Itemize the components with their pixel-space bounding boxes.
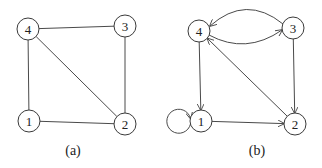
edge-a-4-1 [28, 40, 29, 110]
node-a-2: 2 [114, 113, 136, 135]
svg-text:4: 4 [25, 22, 32, 37]
svg-text:1: 1 [26, 114, 33, 129]
edge-a-4-3 [39, 26, 114, 28]
edge-b-1-2 [212, 121, 284, 123]
graph-b: 4 3 1 2 (b) [167, 9, 306, 159]
caption-a: (a) [65, 143, 81, 159]
node-b-4: 4 [188, 20, 210, 42]
svg-text:3: 3 [290, 21, 297, 36]
edge-b-3-4 [210, 9, 283, 26]
node-b-2: 2 [284, 113, 306, 135]
node-a-4: 4 [17, 18, 39, 40]
edge-a-1-2 [40, 121, 114, 123]
svg-text:2: 2 [292, 117, 299, 132]
node-b-3: 3 [282, 17, 304, 39]
graph-figure: 4 3 1 2 (a) 4 [0, 0, 322, 168]
edge-b-4-3 [209, 30, 282, 44]
node-a-1: 1 [18, 110, 40, 132]
edge-a-4-2 [36, 37, 117, 117]
node-b-1: 1 [190, 110, 212, 132]
svg-text:2: 2 [122, 117, 129, 132]
svg-text:1: 1 [198, 114, 205, 129]
graph-a: 4 3 1 2 (a) [17, 15, 136, 159]
edge-b-4-1 [199, 42, 201, 110]
caption-b: (b) [249, 143, 266, 159]
node-a-3: 3 [114, 15, 136, 37]
svg-text:3: 3 [122, 19, 129, 34]
edge-b-1-1-self-loop [167, 109, 191, 133]
svg-text:4: 4 [196, 24, 203, 39]
edge-b-2-4 [208, 39, 288, 117]
edge-b-3-2 [293, 39, 294, 113]
